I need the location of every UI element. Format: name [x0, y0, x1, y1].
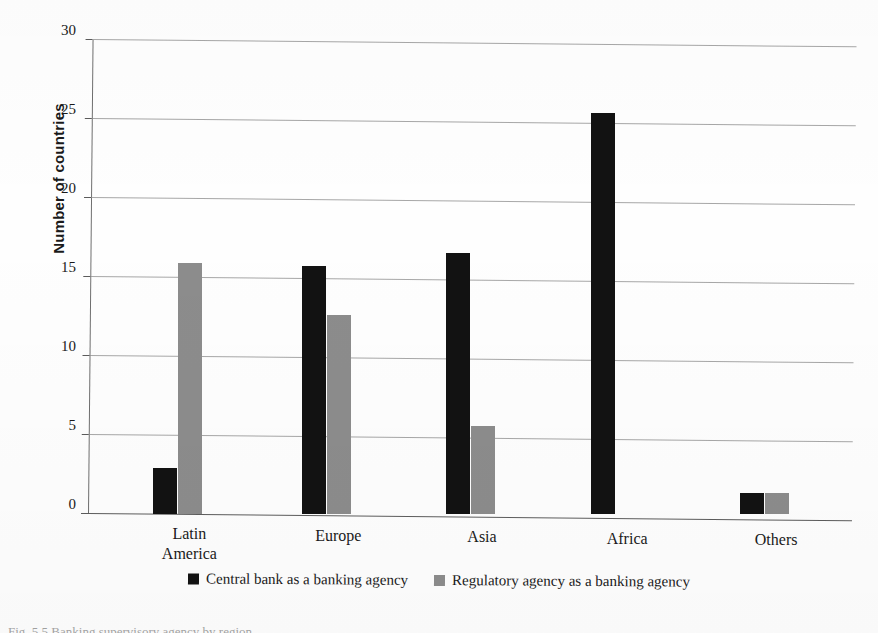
x-axis-label-europe: Europe: [278, 514, 398, 546]
x-axis-label-line: America: [129, 544, 249, 564]
x-axis-label-asia: Asia: [422, 514, 542, 547]
bar: [765, 493, 789, 514]
bar-series-layer: [88, 40, 852, 514]
bar: [471, 426, 495, 514]
legend-item: Regulatory agency as a banking agency: [434, 572, 690, 591]
x-axis-label-line: Africa: [567, 529, 687, 549]
bar-group: [591, 40, 640, 514]
x-axis-label-latin-america: LatinAmerica: [129, 514, 249, 564]
y-tick-mark-0: [81, 513, 88, 514]
legend-label: Central bank as a banking agency: [206, 571, 408, 589]
bar-group: [740, 40, 789, 514]
bar-group: [446, 40, 495, 514]
x-axis-label-line: Others: [716, 530, 836, 550]
bar-group: [153, 40, 202, 514]
legend-swatch-icon: [434, 575, 445, 586]
legend-swatch-icon: [188, 573, 199, 584]
plot-area: 051015202530 LatinAmericaEuropeAsiaAfric…: [88, 40, 852, 514]
legend-label: Regulatory agency as a banking agency: [452, 572, 690, 590]
bar-chart-figure: Number of countries 051015202530 LatinAm…: [0, 0, 878, 633]
x-axis-label-line: Latin: [129, 524, 249, 544]
y-axis-label-30: 30: [40, 22, 76, 39]
x-axis-label-line: Asia: [422, 527, 542, 547]
y-axis-label-5: 5: [40, 417, 76, 434]
bar: [446, 253, 470, 514]
bar: [153, 468, 177, 514]
y-axis-label-20: 20: [40, 180, 76, 197]
figure-caption: Fig. 5.5 Banking supervisory agency by r…: [8, 624, 252, 633]
bar: [740, 493, 764, 514]
y-axis-label-10: 10: [40, 338, 76, 355]
bar: [178, 263, 202, 514]
legend-item: Central bank as a banking agency: [188, 570, 408, 588]
x-axis-label-others: Others: [716, 514, 836, 550]
bar: [591, 113, 615, 514]
y-axis-label-0: 0: [40, 496, 76, 513]
bar: [302, 266, 326, 514]
bar-group: [302, 40, 351, 514]
y-axis-label-15: 15: [40, 259, 76, 276]
chart-legend: Central bank as a banking agencyRegulato…: [0, 569, 878, 591]
bar: [327, 315, 351, 514]
y-axis-label-25: 25: [40, 101, 76, 118]
x-axis-label-africa: Africa: [567, 514, 687, 549]
x-axis-label-line: Europe: [278, 526, 398, 546]
